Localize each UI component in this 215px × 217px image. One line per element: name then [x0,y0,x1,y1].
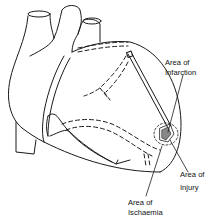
pulmonary-trunk-outline [54,6,81,53]
lad-artery [128,54,168,128]
label-area-of-ischaemia: Area of Ischaemia [128,198,163,217]
infarction-zone [162,127,171,140]
heart-diagram: Area of Infarction Area of Injury Area o… [0,0,215,217]
aorta-opening [28,11,50,17]
coronary-branch [48,114,116,164]
aorta-outline [9,16,29,128]
label-area-of-infarction: Area of Infarction [165,58,196,77]
vein-stub [16,122,36,154]
posterior-vessels-dashed [62,42,160,166]
ischaemia-leader [146,146,162,196]
label-area-of-injury: Area of Injury [180,170,204,192]
